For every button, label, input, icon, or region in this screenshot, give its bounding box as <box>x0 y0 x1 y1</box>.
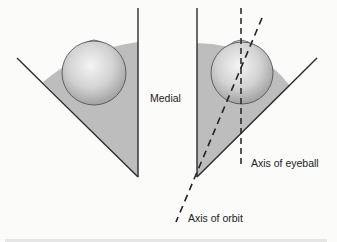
left-orbit <box>17 8 138 177</box>
axis-of-orbit-label: Axis of orbit <box>188 213 243 224</box>
medial-label: Medial <box>150 93 181 104</box>
left-eyeball <box>62 40 126 105</box>
axis-of-eyeball-label: Axis of eyeball <box>251 158 319 169</box>
orbit-axes-diagram <box>0 0 337 242</box>
right-orbit <box>176 8 317 222</box>
